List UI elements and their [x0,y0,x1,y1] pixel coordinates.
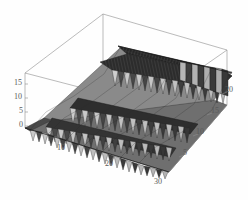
plot-canvas [0,0,248,200]
z-tick-label-10: 10 [14,93,22,101]
x-tick-label-30: 30 [154,178,162,186]
y-tick-label-10: 10 [196,128,204,136]
z-tick-label-15: 15 [14,79,22,87]
surface-mesh [25,46,232,179]
y-tick-label-5: 5 [183,149,187,157]
y-tick-label-15: 15 [211,107,219,115]
z-tick-label-5: 5 [19,107,23,115]
z-tick-label-0: 0 [19,121,23,129]
x-tick-label-10: 10 [57,144,65,152]
x-tick-label-20: 20 [105,160,113,168]
surface-plot-figure: 15 10 5 0 10 20 30 20 15 10 5 [0,0,248,200]
y-tick-label-20: 20 [225,86,233,94]
